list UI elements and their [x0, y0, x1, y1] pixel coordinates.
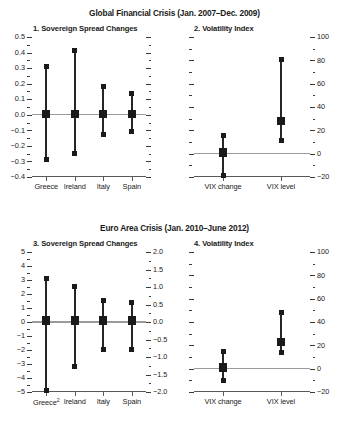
axis-tick-minor — [313, 165, 316, 166]
block-title-euro-area-crisis: Euro Area Crisis (Jan. 2010–June 2012) — [0, 223, 349, 233]
axis-tick-minor — [27, 138, 30, 139]
axis-tick-minor — [189, 310, 192, 311]
lower-bound-marker — [279, 350, 284, 355]
category-tick — [46, 177, 47, 181]
axis-tick-major — [27, 308, 32, 309]
axis-tick-major — [146, 177, 151, 178]
axis-tick-minor — [313, 380, 316, 381]
axis-tick-label: −0.2 — [11, 142, 25, 149]
panel-2-title: 2. Volatility Index — [194, 24, 254, 33]
axis-tick-label: −1.0 — [153, 353, 167, 360]
upper-bound-marker — [279, 310, 284, 315]
axis-tick-minor — [189, 119, 192, 120]
category-label: Spain — [123, 182, 141, 191]
axis-tick-label: 1.0 — [153, 283, 163, 290]
axis-tick-major — [310, 345, 315, 346]
category-tick — [132, 177, 133, 181]
axis-tick-major — [146, 84, 151, 85]
axis-tick-label: −1 — [17, 332, 25, 339]
upper-bound-marker — [72, 284, 77, 289]
axis-tick-minor — [149, 296, 152, 297]
category-tick — [103, 177, 104, 181]
axis-tick-major — [146, 322, 151, 323]
axis-tick-major — [27, 280, 32, 281]
range-stem — [74, 286, 76, 366]
axis-tick-major — [146, 357, 151, 358]
axis-tick-major — [189, 84, 194, 85]
axis-tick-label: 0.5 — [153, 301, 163, 308]
axis-tick-major — [27, 68, 32, 69]
upper-bound-marker — [101, 298, 106, 303]
category-label: Spain — [123, 397, 141, 406]
axis-tick-label: −5 — [17, 388, 25, 395]
axis-tick-minor — [27, 301, 30, 302]
lower-bound-marker — [129, 347, 134, 352]
axis-tick-label: 20 — [317, 342, 325, 349]
panel-2-volatility-index: 2. Volatility Index −20020406080100VIX c… — [182, 24, 344, 204]
panel-3-category-labels: Greece2IrelandItalySpain — [32, 397, 146, 411]
axis-tick-minor — [149, 278, 152, 279]
axis-tick-minor — [149, 261, 152, 262]
category-tick — [132, 392, 133, 396]
axis-tick-major — [146, 146, 151, 147]
axis-tick-label: −1.5 — [153, 371, 167, 378]
upper-bound-marker — [129, 91, 134, 96]
axis-tick-minor — [27, 315, 30, 316]
axis-tick-minor — [149, 138, 152, 139]
range-stem — [102, 300, 104, 349]
axis-tick-label: 0.5 — [15, 33, 25, 40]
upper-bound-marker — [44, 64, 49, 69]
panel-3-title: 3. Sovereign Spread Changes — [33, 239, 138, 248]
upper-bound-marker — [221, 133, 226, 138]
upper-bound-marker — [129, 300, 134, 305]
axis-tick-minor — [149, 123, 152, 124]
panel-4-zero-reference-line — [194, 368, 310, 369]
axis-tick-label: 40 — [317, 103, 325, 110]
axis-tick-major — [146, 115, 151, 116]
axis-tick-label: −4 — [17, 374, 25, 381]
panel-4-volatility-index: 4. Volatility Index −20020406080100VIX c… — [182, 239, 344, 419]
figure-root: Global Financial Crisis (Jan. 2007–Dec. … — [0, 0, 349, 431]
axis-tick-label: 1.5 — [153, 266, 163, 273]
axis-tick-label: 0.0 — [15, 111, 25, 118]
axis-tick-minor — [189, 380, 192, 381]
axis-tick-minor — [149, 76, 152, 77]
axis-tick-major — [189, 299, 194, 300]
upper-bound-marker — [72, 48, 77, 53]
axis-tick-label: 60 — [317, 295, 325, 302]
axis-tick-major — [310, 154, 315, 155]
category-label: VIX change — [204, 182, 241, 191]
axis-tick-minor — [27, 385, 30, 386]
axis-tick-minor — [149, 169, 152, 170]
axis-tick-minor — [313, 357, 316, 358]
block-title-global-financial-crisis: Global Financial Crisis (Jan. 2007–Dec. … — [0, 8, 349, 18]
axis-tick-major — [146, 340, 151, 341]
upper-bound-marker — [221, 349, 226, 354]
axis-tick-minor — [149, 383, 152, 384]
axis-tick-minor — [149, 331, 152, 332]
category-label: VIX level — [267, 397, 295, 406]
axis-tick-minor — [149, 45, 152, 46]
lower-bound-marker — [44, 388, 49, 393]
panel-1-category-ticks — [32, 177, 146, 181]
axis-tick-minor — [189, 72, 192, 73]
panel-3-sovereign-spread-changes: 3. Sovereign Spread Changes −5−4−3−2−101… — [6, 239, 178, 419]
chart-block-global-financial-crisis: Global Financial Crisis (Jan. 2007–Dec. … — [0, 0, 349, 215]
axis-tick-major — [310, 177, 315, 178]
category-label: VIX change — [204, 397, 241, 406]
category-label: Italy — [97, 182, 110, 191]
range-stem — [131, 302, 133, 349]
axis-tick-major — [189, 130, 194, 131]
axis-tick-major — [27, 146, 32, 147]
axis-tick-label: 80 — [317, 57, 325, 64]
axis-tick-major — [189, 252, 194, 253]
axis-tick-major — [146, 37, 151, 38]
axis-tick-major — [27, 322, 32, 323]
lower-bound-marker — [129, 129, 134, 134]
category-tick — [75, 392, 76, 396]
central-estimate-marker — [128, 110, 136, 118]
axis-tick-label: −20 — [317, 388, 329, 395]
axis-tick-major — [189, 60, 194, 61]
axis-tick-major — [310, 37, 315, 38]
axis-tick-minor — [313, 72, 316, 73]
